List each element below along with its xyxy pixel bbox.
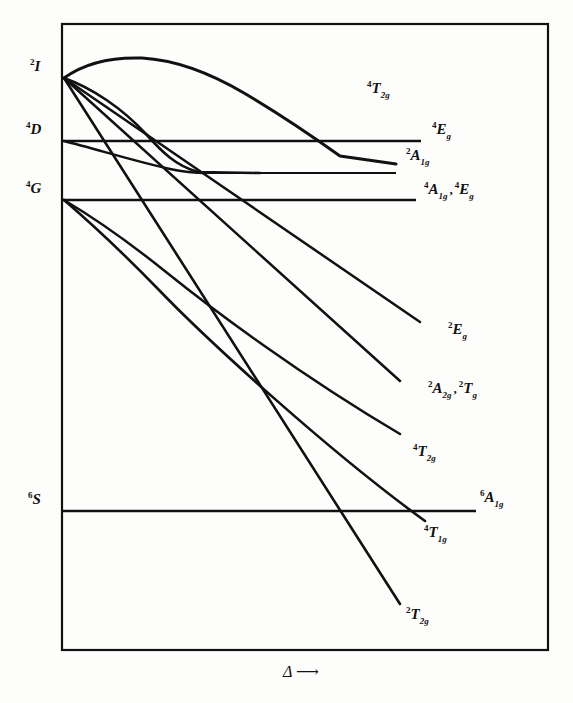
- right-label-2A1g-subscript: 1g: [421, 157, 430, 167]
- right-label-4Eg2-term: E: [459, 181, 469, 197]
- right-label-2T2g: 2T2g: [406, 606, 429, 626]
- left-label-2I: 2I: [30, 58, 40, 74]
- energy-level-chart: [0, 0, 573, 703]
- right-label-4Eg2-subscript: g: [469, 191, 474, 201]
- right-label-2Eg-term: E: [453, 321, 463, 337]
- right-label-2Eg: 2Eg: [448, 321, 467, 341]
- right-label-2Tg-subscript: g: [472, 390, 477, 400]
- right-label-4T2g-upper-term: T: [372, 80, 381, 96]
- right-label-2A1g-term: A: [411, 147, 421, 163]
- right-label-2A2g-subscript: 2g: [443, 390, 452, 400]
- right-label-4A1g-term: A: [429, 181, 439, 197]
- right-label-4T2g-upper-subscript: 2g: [381, 90, 390, 100]
- left-label-4D-term: D: [31, 121, 42, 137]
- energy-curves: [64, 58, 425, 604]
- right-label-6A1g: 6A1g: [480, 489, 504, 509]
- right-label-6A1g-term: A: [485, 489, 495, 505]
- right-label-4A1g-subscript: 1g: [439, 191, 448, 201]
- right-label-2T2g-subscript: 2g: [420, 616, 429, 626]
- left-label-4D: 4D: [26, 121, 41, 137]
- right-label-4T1g-subscript: 1g: [438, 534, 447, 544]
- x-axis-arrow-icon: ⟶: [296, 663, 318, 680]
- curve-2A2g-2Tg: [64, 78, 400, 381]
- x-axis-symbol: Δ: [283, 663, 292, 680]
- right-label-4T1g-term: T: [429, 524, 438, 540]
- right-label-4T2g-upper: 4T2g: [367, 80, 390, 100]
- right-label-4Eg: 4Eg: [432, 121, 451, 141]
- left-label-6S-term: S: [33, 491, 41, 507]
- right-label-2T2g-term: T: [411, 606, 420, 622]
- right-label-4T2g-lower-subscript: 2g: [427, 453, 436, 463]
- right-label-4A1g-4Eg: 4A1g,4Eg: [424, 181, 474, 201]
- x-axis-caption: Δ ⟶: [283, 662, 318, 681]
- right-label-2A1g: 2A1g: [406, 147, 430, 167]
- right-label-2A2g-term: A: [433, 380, 443, 396]
- plot-frame: [62, 24, 548, 650]
- right-label-2A2g-2Tg: 2A2g,2Tg: [428, 380, 477, 400]
- right-label-4T2g-lower: 4T2g: [413, 443, 436, 463]
- left-label-4G-term: G: [31, 180, 42, 196]
- right-label-6A1g-subscript: 1g: [495, 499, 504, 509]
- figure-root: 2I 4D 4G 6S 4T2g 4Eg 2A1g 4A1g,4Eg 2Eg 2…: [0, 0, 573, 703]
- right-label-4Eg-term: E: [437, 121, 447, 137]
- curve-4T2g-lower: [64, 200, 400, 434]
- left-label-4G: 4G: [26, 180, 41, 196]
- right-label-separator-comma: ,: [448, 182, 455, 197]
- right-label-4Eg-subscript: g: [447, 131, 452, 141]
- right-label-2Eg-subscript: g: [463, 331, 468, 341]
- right-label-4T1g: 4T1g: [424, 524, 447, 544]
- right-label-4T2g-lower-term: T: [418, 443, 427, 459]
- left-label-2I-term: I: [35, 58, 41, 74]
- right-label-separator-comma-2: ,: [452, 381, 459, 396]
- left-label-6S: 6S: [28, 491, 41, 507]
